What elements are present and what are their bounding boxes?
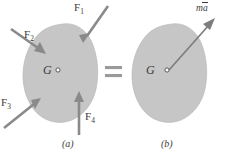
force-label-f3: F3 — [1, 97, 11, 108]
resultant-ma-label: ma — [196, 4, 208, 14]
center-of-mass-label-b: G — [146, 64, 155, 76]
rigid-body-shape-a — [23, 24, 98, 123]
equals-sign — [105, 66, 122, 77]
force-label-f1: F1 — [74, 2, 84, 13]
rigid-body-shape-b — [132, 24, 207, 123]
center-of-mass-dot-b — [165, 68, 169, 72]
force-label-f2: F2 — [24, 29, 34, 40]
center-of-mass-label-a: G — [43, 64, 52, 76]
figure-canvas — [0, 0, 229, 156]
panel-b-group — [132, 18, 215, 122]
panel-caption-a: (a) — [62, 139, 74, 149]
force-equivalence-figure: F1 F2 F3 F4 G G ma (a) (b) — [0, 0, 229, 156]
force-label-f4: F4 — [85, 111, 95, 122]
accel-vector-symbol: a — [203, 4, 208, 14]
center-of-mass-dot-a — [56, 68, 60, 72]
panel-caption-b: (b) — [161, 139, 173, 149]
